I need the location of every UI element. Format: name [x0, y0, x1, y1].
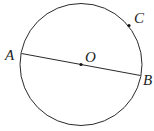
point-o-dot [79, 63, 82, 66]
label-a: A [4, 47, 15, 63]
label-b: B [143, 72, 152, 88]
point-c-dot [127, 24, 130, 27]
label-c: C [134, 10, 145, 26]
circle-diagram: A B O C [0, 0, 154, 131]
label-o: O [85, 49, 96, 65]
